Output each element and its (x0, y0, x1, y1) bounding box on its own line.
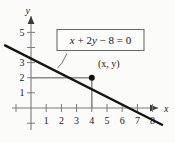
x-tick-label: 6 (120, 115, 125, 126)
y-tick-label: 2 (20, 72, 25, 83)
x-tick-label: 5 (105, 115, 110, 126)
x-tick-labels: 1 2 3 4 5 6 7 8 (44, 115, 155, 126)
x-tick-label: 7 (135, 115, 140, 126)
point-label-close: ) (116, 58, 119, 70)
coordinate-plot: x y 1 2 3 4 5 6 7 8 (0, 0, 175, 143)
equation-line (5, 45, 162, 124)
x-tick-label: 2 (59, 115, 64, 126)
x-tick-label: 1 (44, 115, 49, 126)
y-tick-labels: 5 3 2 1 (20, 27, 25, 98)
y-tick-label: 5 (20, 27, 25, 38)
x-tick-label: 3 (74, 115, 79, 126)
xy-point-marker (89, 75, 95, 81)
math-figure: x y 1 2 3 4 5 6 7 8 (0, 0, 175, 143)
x-tick-label: 4 (89, 115, 94, 126)
x-axis-arrow-icon (150, 105, 158, 112)
y-tick-label: 3 (20, 57, 25, 68)
y-axis-label: y (25, 5, 31, 16)
callout-leader-line (58, 54, 68, 69)
equation-part-plus: + 2 (75, 34, 92, 46)
equation-callout-text: x + 2y − 8 = 0 (69, 34, 132, 46)
x-axis-label: x (163, 103, 169, 114)
y-tick-label: 1 (20, 87, 25, 98)
y-axis-arrow-icon (28, 16, 35, 24)
xy-point-label: (x, y) (98, 58, 120, 70)
equation-part-tail: − 8 = 0 (97, 34, 132, 46)
